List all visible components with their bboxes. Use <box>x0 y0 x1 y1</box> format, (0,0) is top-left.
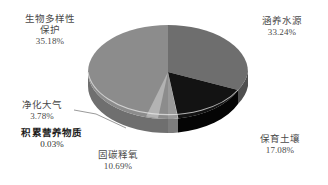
slice-label-water: 涵养水源 33.24% <box>240 16 324 38</box>
pie-chart-graphic <box>86 16 250 148</box>
slice-label-air: 净化大气 3.78% <box>6 100 78 122</box>
slice-value-carbon: 10.69% <box>80 161 156 172</box>
slice-value-air: 3.78% <box>6 111 78 122</box>
slice-label-air-name: 净化大气 <box>6 100 78 111</box>
slice-value-nutrient: 0.03% <box>6 139 98 150</box>
slice-label-carbon: 固碳释氧 10.69% <box>80 150 156 172</box>
slice-value-water: 33.24% <box>240 27 324 38</box>
side-wall-carbon <box>168 118 178 133</box>
pie-svg <box>86 16 250 148</box>
slice-value-soil: 17.08% <box>238 145 322 156</box>
slice-label-water-name: 涵养水源 <box>240 16 324 27</box>
slice-value-biodiversity: 35.18% <box>8 36 92 47</box>
slice-label-soil-name: 保育土壤 <box>238 134 322 145</box>
slice-label-biodiversity: 生物多样性 保护 35.18% <box>8 14 92 47</box>
slice-label-biodiversity-line1: 生物多样性 <box>8 14 92 25</box>
slice-label-biodiversity-line2: 保护 <box>8 25 92 36</box>
slice-label-soil: 保育土壤 17.08% <box>238 134 322 156</box>
slice-label-nutrient: 积累营养物质 0.03% <box>6 128 98 150</box>
slice-label-nutrient-name: 积累营养物质 <box>6 128 98 139</box>
slice-label-carbon-name: 固碳释氧 <box>80 150 156 161</box>
pie-chart-figure: 生物多样性 保护 35.18% 涵养水源 33.24% 保育土壤 17.08% … <box>0 0 328 185</box>
